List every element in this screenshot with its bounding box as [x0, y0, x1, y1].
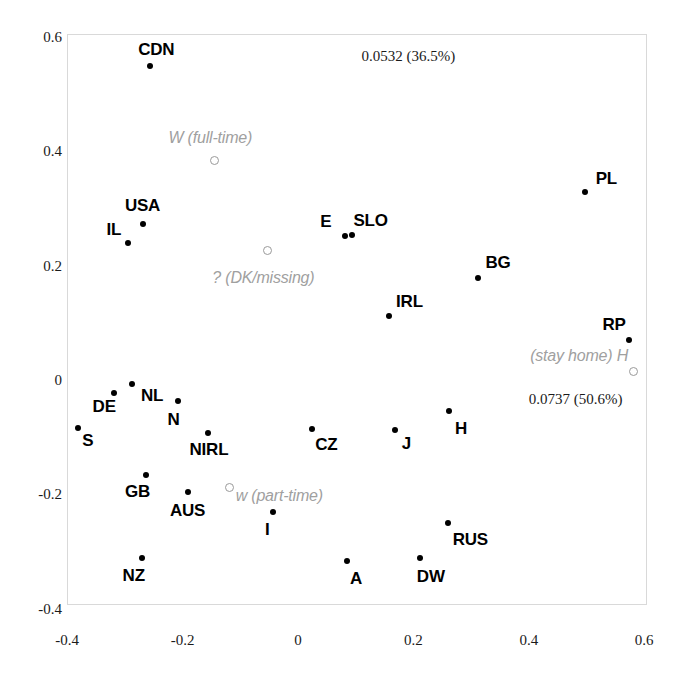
- country-point-marker: [582, 189, 588, 195]
- country-point-label: S: [82, 431, 93, 451]
- country-point-label: USA: [125, 196, 160, 216]
- country-point-label: RUS: [453, 530, 488, 550]
- correspondence-analysis-figure: -0.4-0.200.20.40.6-0.4-0.200.20.40.6 CDN…: [0, 0, 685, 682]
- supplementary-point-label: W (full-time): [168, 129, 252, 147]
- country-point-label: IL: [106, 220, 121, 240]
- country-point-marker: [309, 426, 315, 432]
- country-point-marker: [445, 520, 451, 526]
- country-point-label: A: [350, 569, 362, 589]
- supplementary-point-marker: [225, 483, 234, 492]
- supplementary-point-marker: [263, 246, 272, 255]
- country-point-label: E: [320, 212, 331, 232]
- y-axis-tick-label: -0.2: [38, 486, 62, 503]
- x-axis-tick-label: 0.6: [635, 632, 654, 649]
- country-point-label: N: [168, 410, 180, 430]
- country-point-label: SLO: [353, 211, 387, 231]
- country-point-marker: [140, 221, 146, 227]
- country-point-label: J: [402, 434, 411, 454]
- y-axis-tick-label: 0.4: [43, 143, 62, 160]
- x-axis-tick-label: -0.4: [55, 632, 79, 649]
- country-point-label: NIRL: [190, 440, 229, 460]
- country-point-label: DE: [93, 397, 116, 417]
- country-point-marker: [143, 472, 149, 478]
- country-point-label: DW: [417, 567, 445, 587]
- country-point-label: H: [455, 419, 467, 439]
- supplementary-point-label: w (part-time): [236, 487, 323, 505]
- country-point-marker: [129, 381, 135, 387]
- country-point-label: GB: [125, 482, 150, 502]
- y-axis-tick-label: -0.4: [38, 600, 62, 617]
- y-axis-tick-label: 0.2: [43, 257, 62, 274]
- country-point-marker: [125, 240, 131, 246]
- country-point-label: NL: [141, 386, 163, 406]
- country-point-marker: [139, 555, 145, 561]
- country-point-label: IRL: [396, 292, 423, 312]
- supplementary-point-label: ? (DK/missing): [212, 269, 314, 287]
- country-point-marker: [475, 275, 481, 281]
- x-axis-tick-label: -0.2: [171, 632, 195, 649]
- plot-frame: [67, 34, 647, 605]
- country-point-label: PL: [596, 169, 617, 189]
- supplementary-point-label: (stay home) H: [530, 347, 628, 365]
- country-point-marker: [386, 313, 392, 319]
- country-point-label: RP: [603, 315, 626, 335]
- x-axis-tick-label: 0.4: [519, 632, 538, 649]
- country-point-label: I: [265, 520, 270, 540]
- country-point-label: AUS: [170, 501, 205, 521]
- inertia-annotation: 0.0737 (50.6%): [529, 390, 623, 407]
- country-point-label: CDN: [138, 40, 174, 60]
- country-point-label: NZ: [123, 566, 145, 586]
- inertia-annotation: 0.0532 (36.5%): [361, 47, 455, 64]
- x-axis-tick-label: 0.2: [404, 632, 423, 649]
- y-axis-tick-label: 0.6: [43, 29, 62, 46]
- country-point-marker: [392, 427, 398, 433]
- x-axis-tick-label: 0: [294, 632, 302, 649]
- country-point-label: CZ: [315, 435, 337, 455]
- y-axis-tick-label: 0: [55, 372, 63, 389]
- country-point-marker: [342, 233, 348, 239]
- country-point-label: BG: [486, 253, 511, 273]
